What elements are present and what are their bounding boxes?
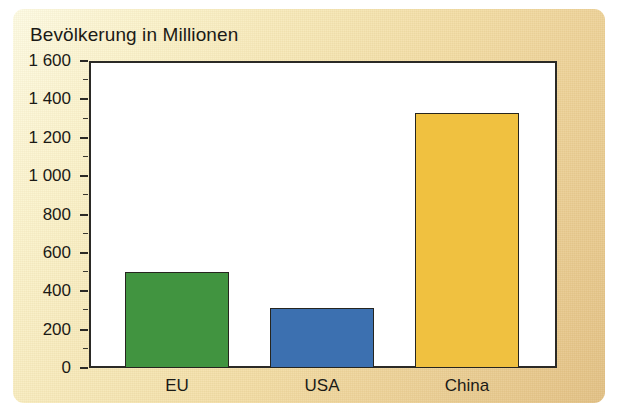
y-axis-tick-label: 1 400 — [28, 89, 71, 109]
y-axis-minor-tick-mark — [83, 233, 88, 234]
y-axis-tick-label: 600 — [43, 243, 71, 263]
y-axis-minor-tick-mark — [83, 194, 88, 195]
y-axis-minor-tick-mark — [83, 309, 88, 310]
y-axis-minor-tick-mark — [83, 156, 88, 157]
x-axis-tick-label: China — [445, 376, 489, 396]
y-axis-tick-mark — [80, 329, 88, 331]
y-axis: 02004006008001 0001 2001 4001 600 — [0, 0, 85, 415]
x-axis-tick-label: USA — [305, 376, 340, 396]
chart-figure: Bevölkerung in Millionen 02004006008001 … — [0, 0, 617, 415]
y-axis-minor-tick-mark — [83, 348, 88, 349]
y-axis-tick-mark — [80, 175, 88, 177]
y-axis-tick-mark — [80, 252, 88, 254]
y-axis-tick-label: 1 200 — [28, 128, 71, 148]
y-axis-tick-mark — [80, 290, 88, 292]
y-axis-minor-tick-mark — [83, 271, 88, 272]
y-axis-tick-label: 1 600 — [28, 51, 71, 71]
y-axis-tick-label: 0 — [62, 358, 71, 378]
bar-eu — [125, 272, 229, 368]
y-axis-minor-tick-mark — [83, 79, 88, 80]
y-axis-tick-label: 400 — [43, 281, 71, 301]
y-axis-tick-mark — [80, 98, 88, 100]
y-axis-tick-label: 1 000 — [28, 166, 71, 186]
y-axis-tick-mark — [80, 367, 88, 369]
bar-usa — [270, 308, 374, 368]
x-axis-tick-label: EU — [165, 376, 189, 396]
y-axis-tick-label: 200 — [43, 320, 71, 340]
y-axis-minor-tick-mark — [83, 118, 88, 119]
bar-china — [415, 113, 519, 368]
y-axis-tick-mark — [80, 214, 88, 216]
y-axis-tick-mark — [80, 137, 88, 139]
y-axis-tick-mark — [80, 60, 88, 62]
y-axis-tick-label: 800 — [43, 205, 71, 225]
